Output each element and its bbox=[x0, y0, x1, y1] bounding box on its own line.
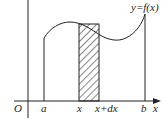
curve-label: y=f(x) bbox=[130, 1, 159, 14]
origin-label: O bbox=[14, 102, 22, 114]
lower-bound-label: a bbox=[41, 102, 47, 114]
integral-diagram: y=f(x) O a x x+dx b x bbox=[0, 0, 166, 129]
strip-right-label: x+dx bbox=[94, 102, 118, 114]
strip-left-label: x bbox=[76, 102, 82, 114]
x-axis-label: x bbox=[152, 102, 158, 114]
hatched-strip bbox=[79, 24, 99, 101]
upper-bound-label: b bbox=[141, 102, 147, 114]
